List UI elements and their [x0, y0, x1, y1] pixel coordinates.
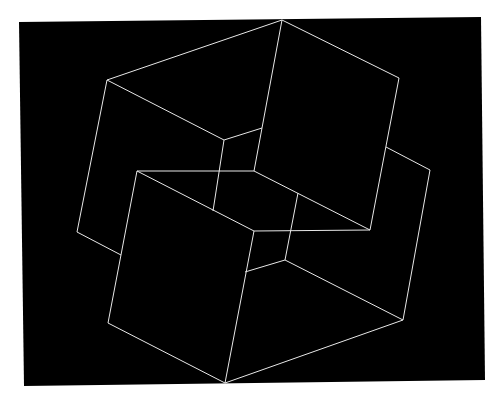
artwork-canvas: [0, 0, 498, 397]
black-field: [19, 17, 485, 386]
